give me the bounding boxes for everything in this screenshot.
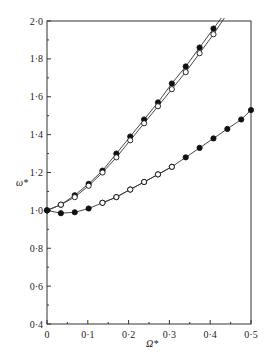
filled-marker [72, 210, 77, 215]
y-tick-label: 1·8 [30, 53, 43, 64]
open-marker [58, 202, 63, 207]
x-axis: 00·10·20·30·40·5 [45, 320, 258, 340]
open-marker [155, 104, 160, 109]
filled-marker [169, 81, 174, 86]
series-0 [47, 15, 223, 210]
filled-marker [239, 117, 244, 122]
filled-marker [44, 208, 49, 213]
open-marker [211, 32, 216, 37]
open-marker [114, 195, 119, 200]
y-tick-label: 0·4 [30, 319, 43, 330]
open-marker [114, 155, 119, 160]
open-marker [86, 183, 91, 188]
open-marker [197, 51, 202, 56]
x-tick-label: 0 [45, 329, 50, 340]
data-series [44, 15, 253, 216]
open-marker [100, 200, 105, 205]
open-marker [183, 70, 188, 75]
open-marker [100, 170, 105, 175]
filled-marker [58, 211, 63, 216]
y-tick-label: 0·6 [30, 281, 43, 292]
filled-marker [211, 136, 216, 141]
y-tick-label: 1·0 [30, 205, 43, 216]
filled-marker [86, 206, 91, 211]
filled-marker [183, 64, 188, 69]
y-tick-label: 0·8 [30, 243, 43, 254]
open-marker [142, 121, 147, 126]
filled-marker [225, 126, 230, 131]
x-tick-label: 0·4 [204, 329, 217, 340]
series-3 [103, 167, 172, 203]
plot-frame [47, 21, 251, 324]
y-axis: 0·40·60·81·01·21·41·61·82·0 [30, 16, 51, 330]
open-marker [72, 195, 77, 200]
filled-marker [211, 26, 216, 31]
x-tick-label: 0·2 [122, 329, 135, 340]
y-tick-label: 1·4 [30, 129, 43, 140]
filled-marker [183, 155, 188, 160]
filled-marker [197, 145, 202, 150]
filled-marker [197, 45, 202, 50]
x-tick-label: 0·5 [244, 329, 257, 340]
filled-marker [248, 107, 253, 112]
open-marker [169, 87, 174, 92]
open-marker [155, 172, 160, 177]
chart: 0·40·60·81·01·21·41·61·82·0 00·10·20·30·… [0, 0, 270, 363]
markers-0 [44, 26, 216, 213]
y-tick-label: 1·6 [30, 91, 43, 102]
open-marker [142, 179, 147, 184]
y-tick-label: 1·2 [30, 167, 43, 178]
y-axis-label: ω* [16, 177, 28, 188]
open-marker [128, 187, 133, 192]
open-marker [128, 138, 133, 143]
x-axis-label: Ω* [146, 338, 158, 349]
markers-1 [44, 32, 216, 213]
open-marker [169, 164, 174, 169]
x-tick-label: 0·1 [81, 329, 94, 340]
x-tick-label: 0·3 [163, 329, 176, 340]
y-tick-label: 2·0 [30, 16, 43, 27]
